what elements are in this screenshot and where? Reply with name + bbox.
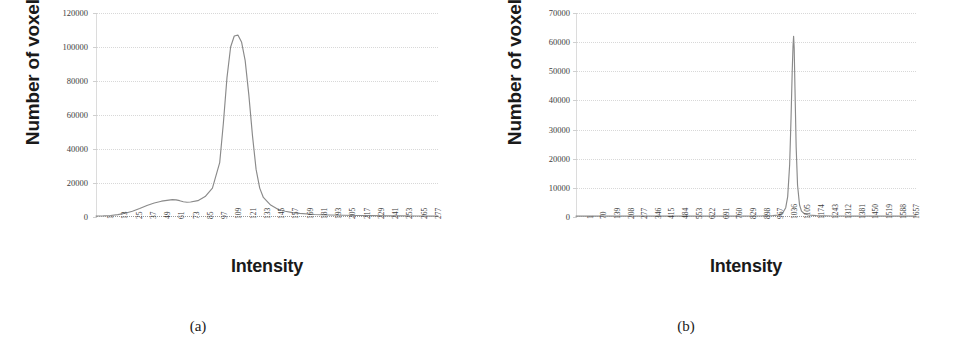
x-tick-label: 760 bbox=[735, 208, 744, 219]
x-tick-label: 553 bbox=[695, 208, 704, 219]
panel-a: Number of voxels 02000040000600008000010… bbox=[0, 0, 476, 359]
x-tick-label: 73 bbox=[192, 212, 201, 220]
x-axis-title-a: Intensity bbox=[96, 256, 438, 277]
x-tick-label: 622 bbox=[708, 208, 717, 219]
x-tick-label: 253 bbox=[405, 208, 414, 219]
x-tick-label: 121 bbox=[249, 208, 258, 219]
y-tick-labels-a: 020000400006000080000100000120000 bbox=[34, 13, 92, 217]
x-tick-label: 1450 bbox=[871, 204, 880, 219]
x-tick-label: 208 bbox=[627, 208, 636, 219]
y-tick-label: 70000 bbox=[549, 8, 570, 18]
y-tick-mark bbox=[573, 217, 577, 218]
x-tick-label: 85 bbox=[206, 212, 215, 220]
x-tick-label: 691 bbox=[722, 208, 731, 219]
x-tick-label: 145 bbox=[277, 208, 286, 219]
x-tick-label: 265 bbox=[420, 208, 429, 219]
x-tick-label: 967 bbox=[776, 208, 785, 219]
plot-area-a bbox=[96, 13, 438, 217]
x-tick-label: 1 bbox=[586, 215, 595, 219]
caption-b: (b) bbox=[448, 318, 924, 335]
x-tick-label: 1381 bbox=[858, 204, 867, 219]
y-tick-label: 20000 bbox=[549, 154, 570, 164]
y-tick-label: 60000 bbox=[549, 37, 570, 47]
y-tick-mark bbox=[93, 217, 97, 218]
x-tick-label: 133 bbox=[263, 208, 272, 219]
x-tick-label: 61 bbox=[177, 212, 186, 220]
x-tick-labels-b: 1701392082773464154845536226917608298989… bbox=[576, 219, 916, 255]
y-tick-label: 50000 bbox=[549, 66, 570, 76]
x-tick-label: 1105 bbox=[803, 204, 812, 219]
x-tick-label: 1243 bbox=[831, 204, 840, 219]
x-tick-label: 484 bbox=[681, 208, 690, 219]
x-tick-label: 898 bbox=[763, 208, 772, 219]
y-tick-label: 10000 bbox=[549, 183, 570, 193]
x-tick-label: 109 bbox=[234, 208, 243, 219]
plot-area-b bbox=[576, 13, 916, 217]
x-tick-label: 1174 bbox=[817, 204, 826, 219]
x-tick-label: 1 bbox=[106, 215, 115, 219]
x-tick-label: 1312 bbox=[844, 204, 853, 219]
panel-b: Number of voxels 01000020000300004000050… bbox=[476, 0, 952, 359]
histogram-curve-a bbox=[96, 13, 438, 217]
histogram-curve-b bbox=[576, 13, 916, 217]
y-tick-label: 30000 bbox=[549, 125, 570, 135]
x-tick-label: 346 bbox=[654, 208, 663, 219]
x-tick-label: 1036 bbox=[790, 204, 799, 219]
x-tick-label: 181 bbox=[320, 208, 329, 219]
y-tick-label: 0 bbox=[566, 212, 570, 222]
x-tick-label: 25 bbox=[135, 212, 144, 220]
x-axis-title-b: Intensity bbox=[576, 256, 916, 277]
x-tick-label: 97 bbox=[220, 212, 229, 220]
x-tick-label: 217 bbox=[363, 208, 372, 219]
x-tick-label: 229 bbox=[377, 208, 386, 219]
x-tick-label: 193 bbox=[334, 208, 343, 219]
x-tick-label: 277 bbox=[640, 208, 649, 219]
x-tick-label: 277 bbox=[434, 208, 443, 219]
y-tick-label: 0 bbox=[84, 212, 88, 222]
caption-a: (a) bbox=[0, 318, 436, 335]
x-tick-label: 139 bbox=[613, 208, 622, 219]
y-tick-label: 120000 bbox=[63, 8, 89, 18]
x-tick-label: 1657 bbox=[912, 204, 921, 219]
x-tick-label: 1588 bbox=[899, 204, 908, 219]
x-tick-label: 37 bbox=[149, 212, 158, 220]
x-tick-label: 13 bbox=[120, 212, 129, 220]
x-tick-label: 49 bbox=[163, 212, 172, 220]
y-tick-label: 60000 bbox=[67, 110, 88, 120]
x-tick-label: 157 bbox=[291, 208, 300, 219]
x-tick-label: 1519 bbox=[885, 204, 894, 219]
y-tick-label: 40000 bbox=[67, 144, 88, 154]
y-tick-label: 20000 bbox=[67, 178, 88, 188]
x-tick-label: 169 bbox=[306, 208, 315, 219]
x-tick-label: 70 bbox=[599, 212, 608, 220]
x-tick-label: 829 bbox=[749, 208, 758, 219]
x-tick-label: 205 bbox=[348, 208, 357, 219]
x-tick-label: 241 bbox=[391, 208, 400, 219]
y-tick-label: 40000 bbox=[549, 95, 570, 105]
y-tick-label: 100000 bbox=[63, 42, 89, 52]
figure-container: Number of voxels 02000040000600008000010… bbox=[0, 0, 953, 359]
y-tick-labels-b: 010000200003000040000500006000070000 bbox=[516, 13, 574, 217]
y-tick-label: 80000 bbox=[67, 76, 88, 86]
x-tick-label: 415 bbox=[667, 208, 676, 219]
x-tick-labels-a: 1132537496173859710912113314515716918119… bbox=[96, 219, 438, 255]
